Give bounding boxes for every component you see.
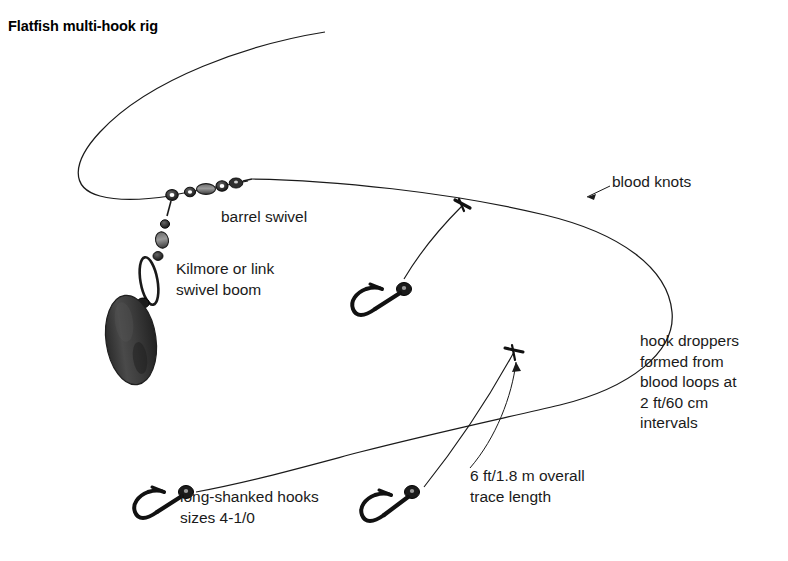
label-blood-knots: blood knots xyxy=(612,172,691,193)
label-barrel-swivel: barrel swivel xyxy=(221,207,307,228)
label-trace-length: 6 ft/1.8 m overall trace length xyxy=(470,466,585,507)
hook-lower-center xyxy=(361,486,419,522)
blood-knot-lower xyxy=(505,345,523,360)
label-swivel-boom: Kilmore or link swivel boom xyxy=(176,259,274,300)
leader-blood-knots xyxy=(587,186,610,200)
barrel-swivel-cluster xyxy=(166,178,252,200)
page-title: Flatfish multi-hook rig xyxy=(8,18,158,34)
trace-outer-loop xyxy=(256,176,668,245)
rig-illustration xyxy=(0,0,788,561)
label-hook-droppers: hook droppers formed from blood loops at… xyxy=(640,331,739,434)
dropper-upper xyxy=(404,206,462,279)
mainline xyxy=(78,32,325,199)
link-boom xyxy=(136,201,171,308)
hook-upper xyxy=(352,283,411,316)
fishing-rig-diagram: Flatfish multi-hook rig barrel swivel Ki… xyxy=(0,0,788,561)
blood-knot-upper xyxy=(455,199,470,211)
lead-weight xyxy=(100,292,162,388)
label-hook-sizes: long-shanked hooks sizes 4-1/0 xyxy=(180,487,319,528)
leader-trace-length xyxy=(470,362,521,468)
